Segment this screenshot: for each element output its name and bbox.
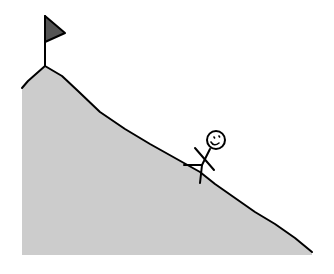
scene-canvas (0, 0, 334, 274)
flag-banner (45, 16, 65, 42)
mountain-fill (22, 66, 312, 255)
stick-figure-arms (195, 148, 214, 170)
stick-figure-head (207, 131, 225, 149)
flag-icon (45, 16, 65, 66)
